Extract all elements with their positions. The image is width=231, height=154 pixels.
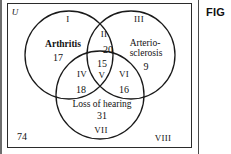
count-arteriosclerosis-only: 9 — [144, 62, 149, 72]
region-label-II: II — [101, 30, 108, 39]
count-arteriosclerosis-hearing: 16 — [119, 85, 129, 95]
set-name-loss-of-hearing: Loss of hearing — [72, 100, 131, 110]
set-name-arthritis: Arthritis — [45, 40, 81, 50]
count-arthritis-arteriosclerosis: 20 — [103, 45, 113, 55]
count-arthritis-hearing: 18 — [76, 85, 86, 95]
region-label-III: III — [134, 15, 144, 24]
region-label-IV: IV — [77, 70, 87, 79]
count-hearing-only: 31 — [97, 111, 107, 121]
scan-edge-artifact — [0, 0, 2, 154]
region-label-VI: VI — [119, 70, 129, 79]
figure-caption-fragment: FIG — [206, 6, 225, 18]
figure-page: U I Arthritis 17 III Arterio- sclerosis … — [0, 0, 231, 154]
count-all-three: 15 — [97, 59, 107, 69]
region-label-VIII: VIII — [155, 134, 172, 143]
region-label-I: I — [66, 15, 69, 24]
region-label-V: V — [99, 71, 106, 80]
count-none: 74 — [17, 132, 27, 142]
region-label-VII: VII — [94, 126, 107, 135]
universal-set-label: U — [12, 8, 19, 17]
count-arthritis-only: 17 — [53, 53, 63, 63]
column-rule — [198, 0, 199, 154]
set-name-arteriosclerosis-line2: sclerosis — [130, 49, 163, 59]
